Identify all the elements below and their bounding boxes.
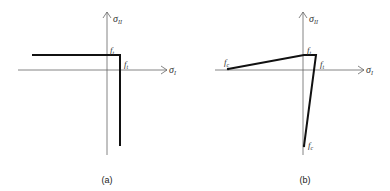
fc-bottom-label: fc <box>308 140 314 151</box>
ft-top-label: ft <box>307 45 312 56</box>
fc-left-point <box>227 68 229 70</box>
caption-b: (b) <box>300 175 311 185</box>
sigma-ii-label: σII <box>309 13 319 25</box>
sigma-i-label: σI <box>169 64 177 76</box>
diagram-canvas: σII σI ft ft (a) σII σI ft ft fc fc (b) <box>0 0 390 191</box>
panel-a: σII σI ft ft (a) <box>18 12 177 185</box>
caption-a: (a) <box>102 175 113 185</box>
ft-right-label: ft <box>124 59 129 70</box>
fc-bottom-point <box>303 145 305 147</box>
sigma-ii-label: σII <box>113 13 123 25</box>
panel-b: σII σI ft ft fc fc (b) <box>215 12 374 185</box>
sigma-i-label: σI <box>366 64 374 76</box>
ft-right-label: ft <box>320 59 325 70</box>
fc-left-label: fc <box>224 57 230 68</box>
ft-top-label: ft <box>110 45 115 56</box>
